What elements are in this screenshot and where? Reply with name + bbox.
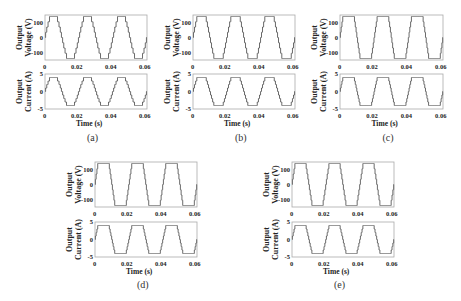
current-plot-area [0,0,461,301]
x-tick-label: 0.02 [318,260,329,267]
y-tick-label: 5 [287,218,290,225]
ylabel-line1: Output [263,215,272,264]
x-tick-label: 0.06 [386,260,397,267]
current-axis-label: OutputCurrent (A) [263,215,280,264]
x-tick-label: 0.04 [352,260,363,267]
current-waveform [292,226,394,254]
x-axis-label: Time (s) [323,267,349,276]
ylabel-line2: Current (A) [271,215,280,264]
panel-caption: (e) [334,279,345,290]
y-tick-label: -5 [285,253,290,260]
y-tick-label: 0 [287,236,290,243]
panel-e: 1000-10000.020.040.06OutputVoltage (V)50… [0,0,461,301]
x-tick-label: 0 [290,260,293,267]
